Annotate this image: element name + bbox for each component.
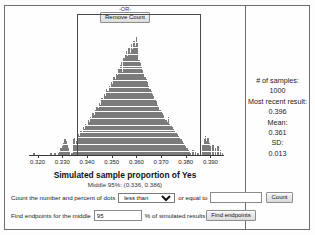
middle-percent-input[interactable] <box>94 210 142 221</box>
dot <box>212 146 213 147</box>
dot <box>207 139 208 140</box>
stats-panel: # of samples: 1000 Most recent result: 0… <box>246 6 309 229</box>
plot-panel: 0.3200.3300.3400.3500.3600.3700.3800.390… <box>5 6 245 229</box>
dot <box>139 63 140 64</box>
recent-result-label: Most recent result: <box>248 97 307 107</box>
dot <box>131 44 132 45</box>
dot <box>168 119 169 120</box>
x-tick-label: 0.380 <box>178 159 193 165</box>
x-tick <box>112 155 113 158</box>
dot <box>207 138 208 139</box>
dot <box>200 136 201 137</box>
dot <box>128 48 129 49</box>
x-tick <box>38 155 39 158</box>
dot <box>200 152 201 153</box>
dot <box>200 148 201 149</box>
comparison-select[interactable]: less thangreater than <box>118 193 175 203</box>
dot <box>137 46 138 47</box>
dot <box>143 74 144 75</box>
dot <box>147 82 148 83</box>
dot <box>205 138 206 139</box>
dot <box>137 49 138 50</box>
mean-label: Mean: <box>268 118 288 128</box>
x-tick-label: 0.330 <box>55 159 70 165</box>
dot <box>121 63 122 64</box>
dot <box>65 141 66 142</box>
dot <box>148 86 149 87</box>
x-tick-label: 0.340 <box>79 159 94 165</box>
or-equal-to-label: or equal to <box>178 194 207 201</box>
dot <box>69 152 70 153</box>
dot <box>153 96 154 97</box>
dot <box>121 69 122 70</box>
sd-value: 0.013 <box>269 149 287 159</box>
dot <box>163 115 164 116</box>
dot <box>146 79 147 80</box>
dot <box>137 53 138 54</box>
mean-value: 0.361 <box>269 128 287 138</box>
dot <box>200 139 201 140</box>
samples-value: 1000 <box>270 86 286 96</box>
x-tick-label: 0.390 <box>203 159 218 165</box>
dot <box>200 143 201 144</box>
dot <box>200 150 201 151</box>
x-tick <box>62 155 63 158</box>
statkey-sampling-distribution-app: 0.3200.3300.3400.3500.3600.3700.3800.390… <box>0 0 315 235</box>
dot <box>168 117 169 118</box>
dot <box>74 139 75 140</box>
dot <box>137 51 138 52</box>
chart-subtitle: Middle 95%: (0.336, 0.386) <box>5 181 245 188</box>
dot <box>212 145 213 146</box>
dot <box>150 91 151 92</box>
x-tick <box>136 155 137 158</box>
dot <box>67 145 68 146</box>
dot <box>121 65 122 66</box>
dot <box>137 44 138 45</box>
x-tick <box>186 155 187 158</box>
dot <box>210 150 211 151</box>
x-tick-label: 0.320 <box>30 159 45 165</box>
x-tick-label: 0.370 <box>154 159 169 165</box>
dot <box>212 152 213 153</box>
dot <box>121 62 122 63</box>
dotplot-canvas[interactable] <box>5 10 245 162</box>
dot <box>212 148 213 149</box>
dot <box>192 152 193 153</box>
dot <box>217 148 218 149</box>
dot <box>142 70 143 71</box>
count-prefix-label: Count the number and percent of dots <box>11 194 115 201</box>
dot <box>126 53 127 54</box>
dot <box>168 120 169 121</box>
x-tick <box>87 155 88 158</box>
dot <box>205 136 206 137</box>
dot <box>68 148 69 149</box>
dot <box>128 49 129 50</box>
dot <box>136 39 137 40</box>
dot <box>217 150 218 151</box>
dot <box>126 51 127 52</box>
dot <box>136 37 137 38</box>
dot <box>158 107 159 108</box>
x-tick-label: 0.350 <box>104 159 119 165</box>
dot <box>141 67 142 68</box>
find-prefix-label: Find endpoints for the middle <box>11 212 91 219</box>
dot <box>137 56 138 57</box>
dot <box>210 152 211 153</box>
dot <box>212 150 213 151</box>
x-tick <box>161 155 162 158</box>
x-axis-line <box>29 155 224 156</box>
dot <box>210 148 211 149</box>
dot <box>215 150 216 151</box>
dot <box>137 48 138 49</box>
dot <box>217 146 218 147</box>
dot <box>138 60 139 61</box>
dot <box>217 152 218 153</box>
dot <box>215 152 216 153</box>
dot <box>133 43 134 44</box>
recent-result-value: 0.396 <box>269 107 287 117</box>
x-tick <box>210 155 211 158</box>
dot <box>137 55 138 56</box>
dot <box>200 138 201 139</box>
dot <box>208 143 209 144</box>
dot <box>131 46 132 47</box>
